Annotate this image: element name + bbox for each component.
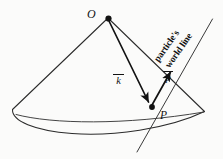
momentum-vector-p-label: p (163, 71, 173, 84)
momentum-vector-p-symbol: p (163, 73, 173, 84)
event-point-label: P (160, 110, 167, 122)
origin-point-label: O (87, 8, 96, 20)
light-cone-figure: O P k p particle's world line (0, 0, 223, 159)
cone-base-back-arc (16, 112, 204, 122)
event-point-marker (149, 104, 155, 110)
origin-point-marker (105, 15, 111, 21)
figure-canvas (0, 0, 223, 159)
wave-vector-k-symbol: k (113, 76, 124, 87)
cone-left-edge (13, 18, 109, 110)
wave-vector-k-arrow (109, 20, 149, 102)
wave-vector-k-label: k (113, 74, 124, 87)
